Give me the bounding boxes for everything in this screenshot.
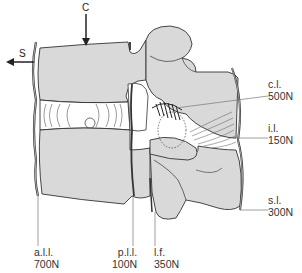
ligament-abbr: s.l. [268,194,293,206]
shear-load-label: S [19,48,26,59]
ligament-force: 350N [154,258,179,270]
ligament-abbr: l.f. [154,246,179,258]
ligament-abbr: a.l.l. [34,246,59,258]
label-supraspinous-ligament: s.l. 300N [268,194,293,218]
ligament-abbr: p.l.l. [112,246,137,258]
ligament-abbr: c.l. [268,78,293,90]
ligament-force: 100N [112,258,137,270]
upper-posterior-elements [146,26,238,138]
label-posterior-longitudinal-ligament: p.l.l. 100N [112,246,137,270]
label-interspinous-ligament: i.l. 150N [268,122,293,146]
ligament-force: 300N [268,206,293,218]
nucleus-pulposus [85,118,95,128]
compression-arrow-icon [82,14,90,46]
label-anterior-longitudinal-ligament: a.l.l. 700N [34,246,59,270]
ligament-force: 150N [268,134,293,146]
ligament-force: 500N [268,90,293,102]
spine-segment-diagram [0,0,302,273]
label-capsular-ligament: c.l. 500N [268,78,293,102]
compression-load-label: C [82,2,89,13]
ligament-abbr: i.l. [268,122,293,134]
ligament-force: 700N [34,258,59,270]
shear-arrow-icon [6,58,34,66]
label-ligamentum-flavum: l.f. 350N [154,246,179,270]
